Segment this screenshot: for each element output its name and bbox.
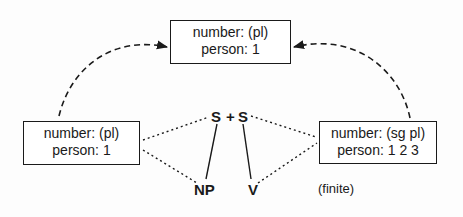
top-feature-box: number: (pl) person: 1	[170, 20, 291, 64]
node-plus: +	[226, 108, 235, 125]
left-box-person: person: 1	[24, 142, 139, 159]
node-s-left: S	[211, 108, 221, 125]
left-arc-arrow	[59, 45, 167, 116]
branch-s-to-v	[243, 124, 251, 179]
left-box-number: number: (pl)	[24, 125, 139, 142]
finite-annotation: (finite)	[318, 181, 354, 196]
dotted-link-left-to-np	[143, 150, 197, 183]
top-box-person: person: 1	[171, 41, 290, 58]
dotted-link-s-to-right	[251, 116, 316, 137]
dotted-link-v-to-right	[258, 143, 317, 183]
right-feature-box: number: (sg pl) person: 1 2 3	[319, 121, 437, 164]
diagram-canvas: number: (pl) person: 1 number: (pl) pers…	[0, 0, 463, 217]
node-np: NP	[194, 181, 215, 198]
dotted-link-left-to-s	[143, 117, 209, 140]
right-box-number: number: (sg pl)	[320, 125, 436, 142]
branch-s-to-np	[206, 124, 217, 179]
node-s-right: S	[238, 108, 248, 125]
node-v: V	[248, 181, 258, 198]
right-arc-arrow	[294, 44, 410, 118]
left-feature-box: number: (pl) person: 1	[23, 121, 140, 165]
top-box-number: number: (pl)	[171, 24, 290, 41]
right-box-person: person: 1 2 3	[320, 142, 436, 159]
